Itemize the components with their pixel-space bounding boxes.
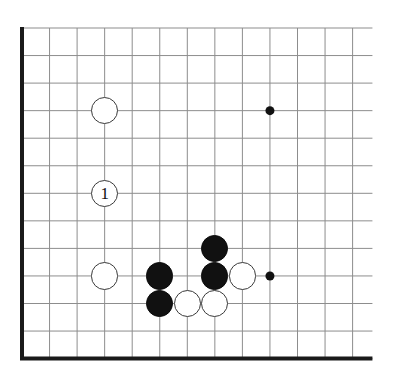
white-stone-right-of-group[interactable] xyxy=(229,262,256,289)
star-point-lower-right xyxy=(265,271,274,280)
black-stone-center-of-group[interactable] xyxy=(201,262,228,289)
go-diagram: 1 xyxy=(0,0,395,392)
star-point-upper-right xyxy=(265,106,274,115)
goban-grid xyxy=(0,0,395,392)
black-stone-left-of-group[interactable] xyxy=(146,262,173,289)
white-stone-bottom-left[interactable] xyxy=(174,290,201,317)
white-stone-move-1[interactable]: 1 xyxy=(91,180,118,207)
board-background xyxy=(0,0,395,392)
move-number-label: 1 xyxy=(100,184,109,201)
white-stone-left-lower[interactable] xyxy=(91,262,118,289)
